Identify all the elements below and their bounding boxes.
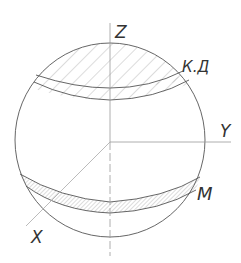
lower-zone-label: M bbox=[197, 183, 213, 204]
sphere-diagram: Z Y X К.Д M bbox=[0, 0, 241, 263]
x-axis-label: X bbox=[30, 227, 43, 247]
upper-zone-label: К.Д bbox=[182, 58, 209, 76]
y-axis-label: Y bbox=[220, 121, 232, 141]
z-axis-label: Z bbox=[114, 22, 127, 42]
